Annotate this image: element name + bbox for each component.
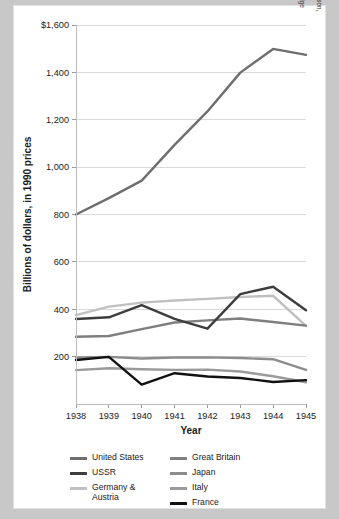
tickmarks-group bbox=[72, 25, 306, 408]
y-axis-title: Billions of dollars, in 1990 prices bbox=[22, 136, 33, 292]
x-tick-label: 1941 bbox=[164, 411, 184, 421]
y-tick-label: 400 bbox=[54, 305, 69, 315]
legend-item[interactable]: Italy bbox=[170, 482, 280, 494]
line-chart-svg: $1,6001,4001,2001,000800600400200 193819… bbox=[14, 6, 325, 446]
legend-item[interactable]: Germany &Austria bbox=[70, 482, 170, 503]
legend-swatch-icon bbox=[170, 472, 187, 476]
legend-item-label: France bbox=[192, 497, 219, 507]
series-line bbox=[76, 49, 306, 215]
legend-swatch-icon bbox=[170, 487, 187, 491]
chart-plot-area: $1,6001,4001,2001,000800600400200 193819… bbox=[14, 6, 325, 508]
legend-swatch-icon bbox=[70, 457, 87, 461]
legend-item[interactable]: Great Britain bbox=[170, 452, 280, 464]
x-tick-label: 1942 bbox=[197, 411, 217, 421]
y-tick-label: 800 bbox=[54, 210, 69, 220]
x-tick-label: 1944 bbox=[263, 411, 283, 421]
x-tick-label: 1945 bbox=[296, 411, 316, 421]
chart-legend: United StatesUSSRGermany &AustriaGreat B… bbox=[70, 452, 285, 512]
x-axis-tick-labels: 19381939194019411942194319441945 bbox=[66, 411, 316, 421]
legend-item[interactable]: USSR bbox=[70, 467, 170, 479]
x-tick-label: 1939 bbox=[99, 411, 119, 421]
chart-figure: $1,6001,4001,2001,000800600400200 193819… bbox=[14, 6, 325, 508]
legend-item[interactable]: France bbox=[170, 497, 280, 509]
legend-item-label-cont: Austria bbox=[92, 492, 135, 502]
legend-item-label: USSR bbox=[92, 467, 116, 477]
x-tick-label: 1943 bbox=[230, 411, 250, 421]
legend-swatch-icon bbox=[170, 457, 187, 461]
y-tick-label: 1,200 bbox=[46, 115, 69, 125]
y-tick-label: 600 bbox=[54, 257, 69, 267]
legend-swatch-icon bbox=[70, 472, 87, 476]
x-tick-label: 1938 bbox=[66, 411, 86, 421]
x-tick-label: 1940 bbox=[131, 411, 151, 421]
legend-swatch-icon bbox=[70, 487, 87, 491]
legend-swatch-icon bbox=[170, 502, 187, 506]
series-lines-group bbox=[76, 49, 306, 385]
legend-item-label: United States bbox=[92, 452, 144, 462]
legend-item[interactable]: United States bbox=[70, 452, 170, 464]
series-line bbox=[76, 318, 306, 336]
legend-item-label: Great Britain bbox=[192, 452, 240, 462]
legend-item-label: Germany &Austria bbox=[92, 482, 135, 503]
y-tick-label: $1,600 bbox=[41, 20, 69, 30]
x-axis-title: Year bbox=[180, 425, 201, 436]
y-tick-label: 1,000 bbox=[46, 162, 69, 172]
legend-item-label: Japan bbox=[192, 467, 215, 477]
legend-item-label: Italy bbox=[192, 482, 208, 492]
y-tick-label: 1,400 bbox=[46, 68, 69, 78]
legend-column-right: Great BritainJapanItalyFrance bbox=[170, 452, 280, 512]
y-axis-tick-labels: $1,6001,4001,2001,000800600400200 bbox=[41, 20, 69, 362]
y-tick-label: 200 bbox=[54, 352, 69, 362]
legend-column-left: United StatesUSSRGermany &Austria bbox=[70, 452, 170, 506]
legend-item[interactable]: Japan bbox=[170, 467, 280, 479]
